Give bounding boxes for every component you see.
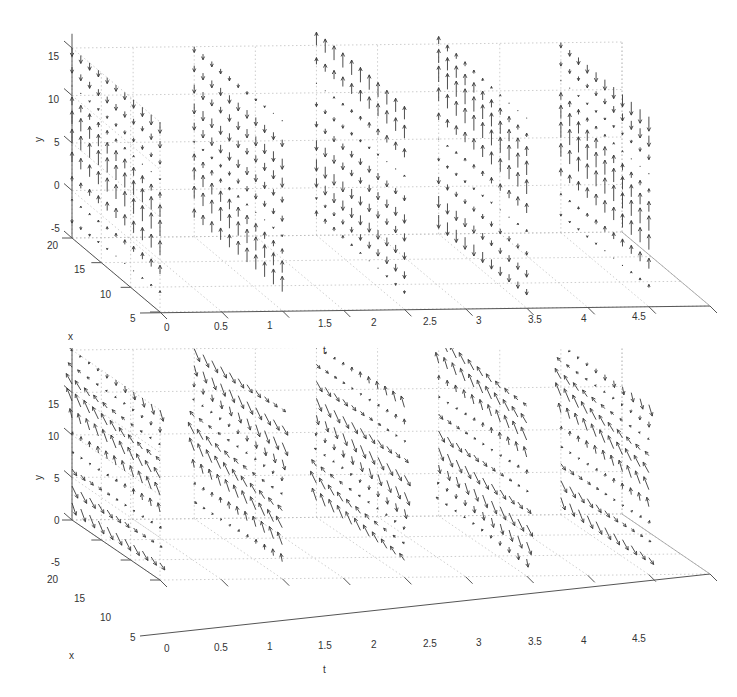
t-tick-4: 4 <box>581 635 587 646</box>
x-tick-5: 5 <box>130 313 136 324</box>
x-tick-15: 15 <box>74 593 85 604</box>
t-tick-1: 1 <box>267 320 273 331</box>
t-tick-2: 2 <box>371 317 377 328</box>
x-tick-10: 10 <box>100 612 111 623</box>
t-tick-1.5: 1.5 <box>318 318 332 329</box>
t-tick-3: 3 <box>476 315 482 326</box>
y-tick-10b: 10 <box>48 431 59 442</box>
x-tick-5: 5 <box>130 632 136 643</box>
x-tick-20: 20 <box>47 240 58 251</box>
x-axis-label: x <box>68 331 73 342</box>
t-tick-2.5: 2.5 <box>423 638 437 649</box>
quiver-plot-top: 15 10 5 0 -5 y 20 15 10 5 x 0 0.5 1 1.5 … <box>0 0 737 345</box>
t-tick-4: 4 <box>581 313 587 324</box>
t-tick-2: 2 <box>371 639 377 650</box>
x-tick-20: 20 <box>47 574 58 585</box>
y-axis-label: y <box>33 475 44 480</box>
x-axis-label: x <box>69 650 74 661</box>
t-tick-2.5: 2.5 <box>423 316 437 327</box>
t-tick-3: 3 <box>476 637 482 648</box>
y-tick-0: 0 <box>54 180 60 191</box>
y-tick-5: 5 <box>54 473 60 484</box>
t-tick-0.5: 0.5 <box>214 642 228 653</box>
y-tick-15: 15 <box>48 51 59 62</box>
t-tick-0.5: 0.5 <box>214 321 228 332</box>
x-tick-10: 10 <box>100 289 111 300</box>
quiver-plot-bottom: 15 10 10 5 0 -5 y 20 15 10 5 x 0 0.5 1 1… <box>0 348 737 693</box>
y-axis-label: y <box>33 137 44 142</box>
t-tick-1.5: 1.5 <box>318 640 332 651</box>
t-tick-3.5: 3.5 <box>528 314 542 325</box>
t-tick-0: 0 <box>164 643 170 654</box>
quiver-canvas-bottom <box>0 348 737 697</box>
y-tick-5: 5 <box>54 137 60 148</box>
t-tick-0: 0 <box>164 322 170 333</box>
t-tick-4.5: 4.5 <box>632 633 646 644</box>
t-tick-1: 1 <box>267 641 273 652</box>
y-tick-15: 15 <box>48 399 59 410</box>
x-tick-15: 15 <box>74 264 85 275</box>
y-tick-neg5: -5 <box>51 223 60 234</box>
t-tick-4.5: 4.5 <box>632 311 646 322</box>
y-tick-neg5: -5 <box>51 557 60 568</box>
y-tick-0: 0 <box>54 515 60 526</box>
y-tick-10: 10 <box>48 94 59 105</box>
t-tick-3.5: 3.5 <box>528 636 542 647</box>
t-axis-label: t <box>323 664 326 675</box>
